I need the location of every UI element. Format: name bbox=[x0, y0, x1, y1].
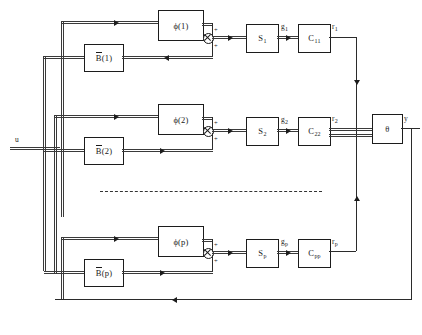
b-block-2-label: B(2) bbox=[96, 146, 112, 156]
phi-block-1-label: ϕ(1) bbox=[173, 21, 188, 31]
arrowhead-phip-input bbox=[114, 236, 119, 242]
signal-label-r1: r1 bbox=[332, 22, 338, 32]
wire-sump-branch-down bbox=[212, 255, 213, 272]
bus-vertical-mid bbox=[54, 115, 57, 273]
sum-2-plus-bottom: + bbox=[214, 136, 218, 143]
arrowhead-s2-to-c2 bbox=[286, 128, 291, 134]
wire-phi2-output bbox=[202, 117, 212, 120]
bus-vertical-outer bbox=[43, 56, 46, 271]
output-label-y: y bbox=[404, 114, 408, 123]
wire-phi1-output bbox=[202, 23, 212, 26]
arrowhead-r1-vertical bbox=[354, 80, 360, 85]
phi-block-2-label: ϕ(2) bbox=[173, 115, 188, 125]
arrowhead-rp-vertical bbox=[354, 196, 360, 201]
b-block-1-label: B(1) bbox=[96, 53, 112, 63]
s-block-2: S2 bbox=[246, 117, 279, 146]
arrowhead-sum2-to-s2 bbox=[228, 128, 233, 134]
signal-label-gp: gp bbox=[281, 237, 288, 247]
arrowhead-global-feedback bbox=[172, 297, 177, 303]
signal-label-r2: r2 bbox=[332, 114, 338, 124]
phi-block-1: ϕ(1) bbox=[158, 10, 204, 41]
wire-bus-to-bp bbox=[44, 271, 84, 274]
wire-phi2-input bbox=[55, 115, 158, 118]
wire-bp-to-sump bbox=[122, 271, 213, 274]
wire-phip-input bbox=[62, 237, 158, 240]
arrowhead-s1-to-c1 bbox=[286, 35, 291, 41]
wire-phip-output bbox=[202, 239, 212, 242]
arrowhead-phi1-input bbox=[114, 20, 119, 26]
wire-global-feedback-bottom bbox=[55, 299, 412, 300]
b-block-2: B(2) bbox=[84, 137, 124, 165]
sum-p-plus-top: + bbox=[214, 242, 218, 249]
s-block-p: Sp bbox=[246, 239, 279, 268]
wire-input-u bbox=[10, 147, 60, 150]
phi-block-p: ϕ(p) bbox=[158, 226, 204, 257]
arrowhead-phi2-input bbox=[114, 114, 119, 120]
sum-2-plus-top: + bbox=[214, 120, 218, 127]
wire-global-feedback-right bbox=[411, 140, 412, 299]
phi-block-2: ϕ(2) bbox=[158, 104, 204, 135]
s-block-1-label: S1 bbox=[258, 33, 266, 44]
arrowhead-sum1-feedback bbox=[164, 55, 169, 61]
s-block-1: S1 bbox=[246, 24, 279, 53]
input-label-u: u bbox=[15, 135, 19, 144]
c-block-2: C22 bbox=[298, 117, 331, 146]
c-block-p: Cpp bbox=[298, 239, 331, 268]
c-block-2-label: C22 bbox=[308, 126, 321, 137]
b-block-p-label: B(p) bbox=[96, 268, 112, 278]
wire-sum1-feedback-down bbox=[212, 40, 213, 57]
wire-bus-into-theta-lower bbox=[329, 134, 372, 137]
wire-c2-to-theta bbox=[329, 128, 372, 131]
sum-1-plus-bottom: + bbox=[214, 43, 218, 50]
signal-label-g2: g2 bbox=[281, 115, 288, 125]
arrowhead-sp-to-cp bbox=[286, 250, 291, 256]
block-diagram: ϕ(1) B(1) S1 C11 + + g1 r1 ϕ(2) B(2) bbox=[0, 0, 422, 335]
theta-block-label: θ bbox=[385, 124, 389, 134]
arrowhead-bp-to-sump bbox=[160, 270, 165, 276]
phi-block-p-label: ϕ(p) bbox=[173, 237, 188, 247]
arrowhead-b2-to-sum2 bbox=[160, 148, 165, 154]
sum-1-plus-top: + bbox=[214, 27, 218, 34]
c-block-p-label: Cpp bbox=[308, 248, 321, 259]
sum-p-plus-bottom: + bbox=[214, 258, 218, 265]
arrowhead-sump-to-sp bbox=[228, 250, 233, 256]
wire-r1-vertical bbox=[356, 37, 357, 140]
wire-c1-to-r1 bbox=[329, 37, 356, 38]
b-block-p: B(p) bbox=[84, 259, 124, 287]
wire-output-branch bbox=[411, 128, 412, 140]
bus-vertical-inner-lower bbox=[61, 237, 64, 299]
b-block-1: B(1) bbox=[84, 44, 124, 72]
wire-bus-to-b1 bbox=[44, 56, 84, 59]
s-block-2-label: S2 bbox=[258, 126, 266, 137]
signal-label-rp: rp bbox=[332, 237, 338, 247]
s-block-p-label: Sp bbox=[258, 248, 266, 259]
arrowhead-sum1-to-s1 bbox=[228, 35, 233, 41]
wire-cp-to-rp bbox=[329, 251, 356, 252]
c-block-1: C11 bbox=[298, 24, 331, 53]
wire-b2-to-sum2 bbox=[122, 149, 213, 152]
bus-vertical-inner-upper bbox=[61, 21, 64, 217]
signal-label-g1: g1 bbox=[281, 22, 288, 32]
c-block-1-label: C11 bbox=[308, 33, 320, 44]
ellipsis-dashed-line bbox=[100, 191, 322, 192]
wire-sum2-branch-down bbox=[212, 133, 213, 150]
wire-phi1-input bbox=[62, 21, 158, 24]
theta-block: θ bbox=[372, 114, 403, 144]
